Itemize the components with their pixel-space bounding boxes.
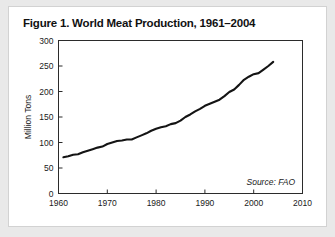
x-tick-label: 1980 [147, 198, 166, 208]
y-axis-tick-labels: 050100150200250300 [39, 36, 53, 199]
y-tick-label: 50 [44, 163, 54, 173]
y-axis-title: Million Tons [23, 95, 33, 139]
x-tick-label: 2010 [293, 198, 312, 208]
y-tick-label: 200 [39, 87, 53, 97]
x-tick-label: 1970 [98, 198, 117, 208]
x-axis-tick-labels: 196019701980199020002010 [49, 198, 312, 208]
y-tick-label: 100 [39, 138, 53, 148]
y-tick-label: 150 [39, 112, 53, 122]
source-annotation: Source: FAO [247, 177, 296, 187]
figure-card: Figure 1. World Meat Production, 1961–20… [8, 6, 327, 227]
plot-frame [59, 41, 303, 194]
line-chart: 050100150200250300 196019701980199020002… [9, 7, 328, 228]
x-tick-label: 2000 [244, 198, 263, 208]
x-tick-label: 1960 [49, 198, 68, 208]
y-tick-label: 250 [39, 61, 53, 71]
y-tick-label: 300 [39, 36, 53, 46]
x-tick-label: 1990 [195, 198, 214, 208]
